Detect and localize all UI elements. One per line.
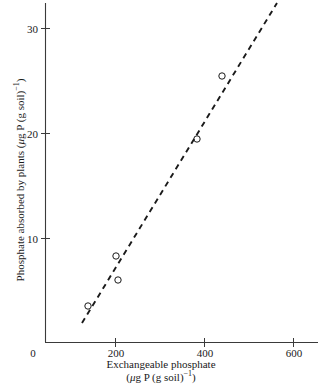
y-units-mu: μ — [14, 139, 26, 145]
x-units-superscript: −1 — [184, 369, 193, 378]
y-units-mid: g P (g soil) — [14, 91, 26, 139]
data-points — [85, 73, 225, 309]
y-axis-title-text: Phosphate absorbed by plants ( — [14, 145, 26, 282]
data-point — [85, 303, 91, 309]
data-point — [113, 253, 119, 259]
chart-figure: 30 20 10 0 200 400 600 Exchangeable phos… — [0, 0, 322, 387]
data-point — [219, 73, 225, 79]
x-axis-title: Exchangeable phosphate (μg P (g soil)−1) — [0, 358, 322, 384]
x-axis-title-text: Exchangeable phosphate — [0, 358, 322, 371]
y-axis-title: Phosphate absorbed by plants (μg P (g so… — [14, 30, 28, 330]
y-units-close: ) — [14, 79, 26, 83]
trendline-dashed — [82, 3, 277, 323]
data-point — [194, 136, 200, 142]
y-units-superscript: −1 — [12, 82, 21, 91]
x-axis-units: (μg P (g soil)−1) — [0, 371, 322, 384]
chart-canvas — [0, 0, 322, 387]
data-point — [115, 277, 121, 283]
x-units-mid: g P (g soil) — [135, 371, 183, 383]
x-units-close: ) — [192, 371, 196, 383]
